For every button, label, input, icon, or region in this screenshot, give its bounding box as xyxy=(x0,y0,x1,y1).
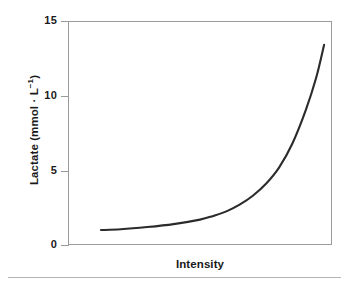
bottom-divider xyxy=(8,277,341,278)
y-tick-label-0: 0 xyxy=(17,239,57,250)
x-axis-title: Intensity xyxy=(68,258,332,270)
y-tick-mark-10 xyxy=(61,96,69,97)
y-axis-title-base: Lactate (mmol · L xyxy=(28,88,40,185)
lactate-curve-svg xyxy=(68,21,332,245)
y-tick-mark-15 xyxy=(61,21,69,22)
y-axis-title: Lactate (mmol · L−1) xyxy=(28,30,40,230)
y-tick-label-15: 15 xyxy=(17,15,57,26)
y-axis-title-exponent: −1 xyxy=(26,79,35,88)
y-tick-mark-0 xyxy=(61,245,69,246)
y-tick-mark-5 xyxy=(61,171,69,172)
y-axis-title-tail: ) xyxy=(28,75,40,79)
lactate-threshold-figure: 15 10 5 0 Lactate (mmol · L−1) Intensity xyxy=(0,0,349,286)
lactate-curve-path xyxy=(101,45,324,230)
